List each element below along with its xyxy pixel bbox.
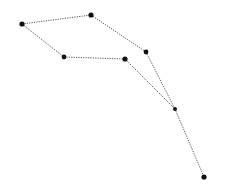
point-p5	[201, 174, 206, 179]
point-p3	[144, 50, 149, 55]
edge-p1-p2	[22, 15, 91, 24]
point-p7	[122, 56, 127, 61]
edge-p7-p4	[125, 59, 175, 109]
edge-p4-p5	[175, 109, 204, 177]
point-p6	[62, 55, 67, 60]
point-p4	[173, 107, 177, 111]
point-path-diagram	[0, 0, 227, 193]
edge-p2-p3	[91, 15, 146, 52]
edge-p3-p4	[146, 52, 175, 109]
edge-p1-p6	[22, 24, 64, 57]
edge-lines	[22, 15, 204, 177]
point-p2	[88, 12, 93, 17]
points	[19, 12, 206, 179]
edge-p6-p7	[64, 57, 125, 59]
point-p1	[19, 21, 24, 26]
